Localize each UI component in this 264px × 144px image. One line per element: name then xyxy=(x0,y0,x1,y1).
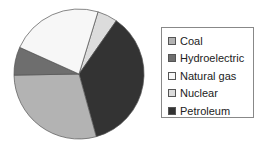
hydroelectric-swatch-icon xyxy=(168,54,176,62)
pie-chart xyxy=(0,0,160,144)
legend-label: Petroleum xyxy=(180,105,230,117)
legend: Coal Hydroelectric Natural gas Nuclear P… xyxy=(161,27,254,118)
legend-item-nuclear: Nuclear xyxy=(168,85,253,103)
legend-item-petroleum: Petroleum xyxy=(168,102,253,120)
legend-item-natural-gas: Natural gas xyxy=(168,67,253,85)
legend-item-coal: Coal xyxy=(168,32,253,50)
legend-label: Natural gas xyxy=(180,70,236,82)
legend-item-hydroelectric: Hydroelectric xyxy=(168,50,253,68)
petroleum-swatch-icon xyxy=(168,107,176,115)
coal-swatch-icon xyxy=(168,37,176,45)
natural-gas-swatch-icon xyxy=(168,72,176,80)
legend-label: Hydroelectric xyxy=(180,52,244,64)
legend-label: Nuclear xyxy=(180,87,218,99)
nuclear-swatch-icon xyxy=(168,89,176,97)
legend-label: Coal xyxy=(180,35,203,47)
